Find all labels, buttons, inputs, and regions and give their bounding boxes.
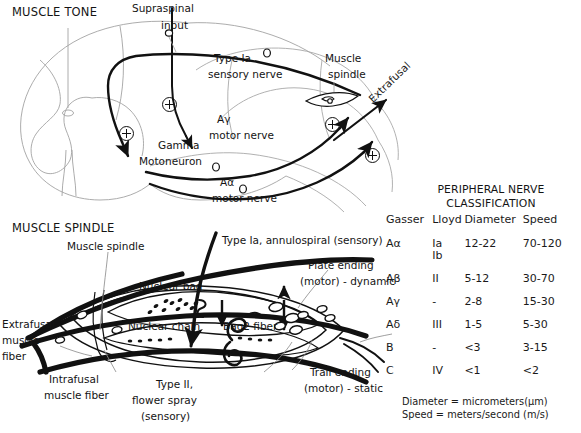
cell-lloyd: Ia Ib [432,232,464,267]
label-nuclear-chain: Nuclear chain [128,320,200,332]
footnote-diameter-units: Diameter = micrometers(μm) [402,395,549,408]
excitatory-synapse-symbol-1 [119,126,134,141]
label-a-gamma-motor-nerve-line2: motor nerve [209,129,274,141]
label-type-ii-line1: Type II, [156,378,193,390]
node-gamma [213,163,220,171]
cell-speed: 30-70 [523,267,581,290]
cell-diameter: 12-22 [464,232,522,267]
excitatory-synapse-symbol-3 [325,117,340,132]
cell-gasser: Aα [386,232,432,267]
label-a-alpha-motor-nerve-line2: motor nerve [212,192,277,204]
column-header-lloyd: Lloyd [432,213,464,232]
label-extrafusal-muscle-fiber-line2: muscle [2,334,40,346]
cell-speed: 70-120 [523,232,581,267]
label-type-ia-sensory-nerve-line1: Type Ia [214,52,251,64]
label-bag2-fiber: Bag2 fiber [223,320,277,332]
label-trail-ending-line2: (motor) - static [304,382,383,394]
table-row: Aγ - 2-8 15-30 [386,290,581,313]
cell-diameter: <1 [464,359,522,382]
label-type-ii-line3: (sensory) [141,410,190,422]
table-title-line1: PERIPHERAL NERVE [416,184,566,197]
label-nuclear-bag: Nuclear bag [139,280,203,292]
cell-lloyd: - [432,336,464,359]
label-intrafusal-muscle-fiber-line1: Intrafusal [49,373,99,385]
neural-pathways-top [108,8,386,199]
cell-lloyd: II [432,267,464,290]
table-row: C IV <1 <2 [386,359,581,382]
excitatory-synapse-symbol-2 [162,97,177,112]
cell-diameter: 1-5 [464,313,522,336]
label-gamma-motoneuron-line1: Gamma [158,139,199,151]
table-row: B - <3 3-15 [386,336,581,359]
label-type-ia-annulospiral: Type Ia, annulospiral (sensory) [222,234,383,246]
cell-speed: 15-30 [523,290,581,313]
peripheral-nerve-classification-table: Gasser Lloyd Diameter Speed Aα Ia Ib 12-… [386,213,581,382]
cell-gasser: B [386,336,432,359]
label-supraspinal-input-line1: Supraspinal [132,2,194,14]
nuclear-bag-nuclei [147,297,199,315]
cell-lloyd: III [432,313,464,336]
panel-title-muscle-tone: MUSCLE TONE [12,6,97,20]
cell-diameter: <3 [464,336,522,359]
label-muscle-spindle-top-line2: spindle [328,68,366,80]
figure-canvas: MUSCLE TONE MUSCLE SPINDLE Supraspinal i… [0,0,581,433]
label-intrafusal-muscle-fiber-line2: muscle fiber [44,389,109,401]
cell-lloyd: IV [432,359,464,382]
label-plate-ending-line1: Plate ending [308,259,374,271]
label-a-gamma-motor-nerve-line1: Aγ [217,113,230,125]
label-muscle-spindle-bottom: Muscle spindle [67,240,144,252]
footnote-speed-units: Speed = meters/second (m/s) [402,408,549,421]
cell-speed: <2 [523,359,581,382]
label-type-ii-line2: flower spray [132,394,197,406]
label-type-ia-sensory-nerve-line2: sensory nerve [208,68,282,80]
table-title-line2: CLASSIFICATION [416,198,566,211]
column-header-gasser: Gasser [386,213,432,232]
cell-lloyd-secondary: Ib [432,249,464,262]
cell-diameter: 2-8 [464,290,522,313]
label-supraspinal-input-line2: input [161,19,188,31]
table-header-row: Gasser Lloyd Diameter Speed [386,213,581,232]
cell-speed: 3-15 [523,336,581,359]
column-header-diameter: Diameter [464,213,522,232]
label-trail-ending-line1: Trail ending [310,366,371,378]
label-gamma-motoneuron-line2: Motoneuron [139,155,202,167]
node-ia [264,49,271,57]
label-extrafusal-muscle-fiber-line3: fiber [2,350,26,362]
table-row: Aβ II 5-12 30-70 [386,267,581,290]
label-a-alpha-motor-nerve-line1: Aα [220,176,234,188]
excitatory-synapse-symbol-4 [365,148,380,163]
table-footnote: Diameter = micrometers(μm) Speed = meter… [402,395,549,421]
label-plate-ending-line2: (motor) - dynamic [300,275,395,287]
cell-gasser: Aδ [386,313,432,336]
column-header-speed: Speed [523,213,581,232]
panel-title-muscle-spindle: MUSCLE SPINDLE [12,222,115,236]
cell-gasser: C [386,359,432,382]
cell-gasser: Aγ [386,290,432,313]
label-extrafusal-muscle-fiber-line1: Extrafusal [2,318,55,330]
nuclear-chain-nuclei [128,336,273,342]
cell-gasser: Aβ [386,267,432,290]
cell-diameter: 5-12 [464,267,522,290]
table-row: Aα Ia Ib 12-22 70-120 [386,232,581,267]
table-row: Aδ III 1-5 5-30 [386,313,581,336]
cell-speed: 5-30 [523,313,581,336]
cell-lloyd: - [432,290,464,313]
label-muscle-spindle-top-line1: Muscle [325,52,361,64]
